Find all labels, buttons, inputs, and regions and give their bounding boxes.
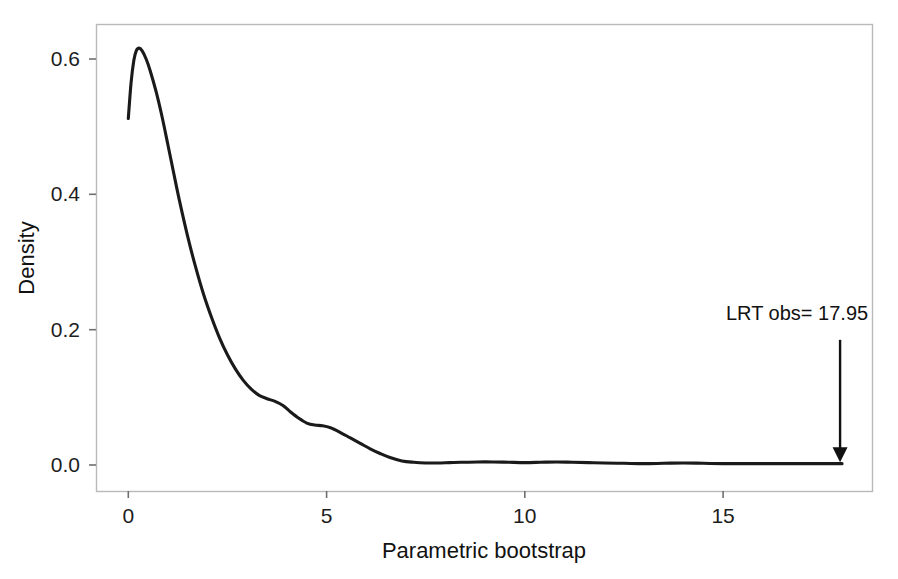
chart-canvas: 0.0 0.2 0.4 0.6 0 5 10 15 Parametric boo… [0, 0, 898, 579]
y-tick-label-2: 0.4 [51, 182, 81, 205]
x-tick-label-1: 5 [321, 504, 333, 527]
x-axis-title: Parametric bootstrap [382, 538, 586, 563]
y-tick-label-1: 0.2 [51, 318, 80, 341]
x-tick-label-3: 15 [711, 504, 734, 527]
density-plot-figure: 0.0 0.2 0.4 0.6 0 5 10 15 Parametric boo… [0, 0, 898, 579]
y-tick-label-3: 0.6 [51, 47, 80, 70]
y-tick-label-0: 0.0 [51, 453, 80, 476]
y-axis-ticks [89, 59, 96, 465]
x-tick-label-2: 10 [513, 504, 536, 527]
x-tick-label-0: 0 [122, 504, 134, 527]
lrt-annotation-label: LRT obs= 17.95 [726, 302, 868, 324]
y-axis-title: Density [14, 221, 39, 294]
plot-frame [97, 25, 873, 492]
